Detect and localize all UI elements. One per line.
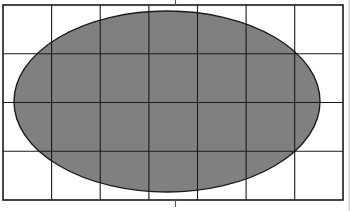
shaded-ellipse-group: [14, 11, 320, 192]
shaded-ellipse: [14, 11, 320, 192]
figure-root: [0, 0, 352, 211]
figure-canvas: [0, 0, 352, 211]
